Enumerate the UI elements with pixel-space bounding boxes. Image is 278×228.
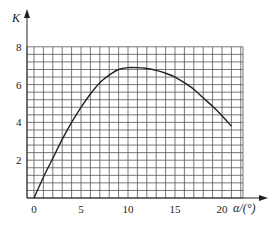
x-tick-labels: 05101520 — [31, 203, 228, 215]
y-tick-labels: 2468 — [16, 41, 22, 166]
y-tick-label: 8 — [16, 41, 22, 53]
y-axis-label: K — [11, 11, 21, 25]
x-axis-arrow-icon — [259, 195, 268, 201]
y-tick-label: 4 — [16, 116, 22, 128]
y-tick-label: 6 — [16, 79, 22, 91]
x-tick-label: 10 — [123, 203, 135, 215]
line-chart: 2468 05101520 K α/(°) — [0, 0, 278, 228]
x-tick-label: 0 — [31, 203, 37, 215]
y-axis-arrow-icon — [24, 9, 30, 18]
y-tick-label: 2 — [16, 154, 22, 166]
x-tick-label: 15 — [170, 203, 182, 215]
x-tick-label: 20 — [217, 203, 229, 215]
x-axis-label: α/(°) — [233, 201, 255, 215]
data-curve — [34, 67, 231, 198]
chart-grid — [27, 47, 243, 198]
x-tick-label: 5 — [78, 203, 84, 215]
